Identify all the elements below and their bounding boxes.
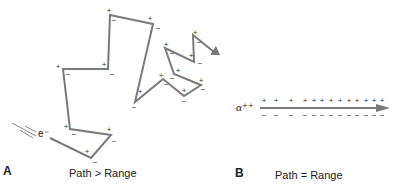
minus-ion: − bbox=[156, 24, 161, 33]
alpha-path-diagram: +++++++++++++−−−−−−−−−−−−− bbox=[260, 96, 390, 120]
panel-b-caption: Path = Range bbox=[275, 169, 343, 181]
minus-ion: − bbox=[164, 80, 169, 89]
minus-ion: − bbox=[372, 111, 377, 120]
plus-ion: + bbox=[355, 96, 360, 105]
minus-ion: − bbox=[132, 103, 137, 112]
minus-ion: − bbox=[198, 59, 203, 68]
minus-ion: − bbox=[320, 111, 325, 120]
minus-ion: − bbox=[197, 38, 202, 47]
minus-ion: − bbox=[93, 158, 98, 167]
plus-ion: + bbox=[85, 147, 90, 156]
plus-ion: + bbox=[289, 96, 294, 105]
plus-ion: + bbox=[159, 71, 164, 80]
plus-ion: + bbox=[320, 96, 325, 105]
minus-ion: − bbox=[289, 111, 294, 120]
plus-ion: + bbox=[148, 14, 153, 23]
plus-ion: + bbox=[338, 96, 343, 105]
plus-ion: + bbox=[176, 66, 181, 75]
plus-ion: + bbox=[107, 125, 112, 134]
minus-ion: − bbox=[338, 111, 343, 120]
panel-a-caption: Path > Range bbox=[69, 167, 137, 179]
plus-ion: + bbox=[107, 6, 112, 15]
minus-ion: − bbox=[347, 111, 352, 120]
minus-ion: − bbox=[262, 111, 267, 120]
minus-ion: − bbox=[380, 111, 385, 120]
diagram-canvas: +−+−+−+−+−+−+−+−+−+−+−+−+−+−+− +++++++++… bbox=[0, 0, 398, 189]
plus-ion: + bbox=[380, 96, 385, 105]
minus-ion: − bbox=[201, 85, 206, 94]
plus-ion: + bbox=[138, 87, 143, 96]
minus-ion: − bbox=[112, 16, 117, 25]
plus-ion: + bbox=[64, 122, 69, 131]
plus-ion: + bbox=[199, 76, 204, 85]
plus-ion: + bbox=[193, 28, 198, 37]
minus-ion: − bbox=[182, 97, 187, 106]
minus-ion: − bbox=[329, 111, 334, 120]
plus-ion: + bbox=[56, 62, 61, 71]
minus-ion: − bbox=[303, 111, 308, 120]
minus-ion: − bbox=[170, 74, 175, 83]
plus-ion: + bbox=[303, 96, 308, 105]
plus-ion: + bbox=[347, 96, 352, 105]
minus-ion: − bbox=[274, 111, 279, 120]
minus-ion: − bbox=[72, 130, 77, 139]
electron-path-diagram: +−+−+−+−+−+−+−+−+−+−+−+−+−+−+− bbox=[12, 6, 220, 167]
minus-ion: − bbox=[355, 111, 360, 120]
panel-a-label: A bbox=[3, 164, 12, 178]
plus-ion: + bbox=[329, 96, 334, 105]
plus-ion: + bbox=[102, 60, 107, 69]
minus-ion: − bbox=[170, 49, 175, 58]
plus-ion: + bbox=[262, 96, 267, 105]
alpha-particle-label: α⁺⁺ bbox=[236, 101, 254, 114]
minus-ion: − bbox=[364, 111, 369, 120]
plus-ion: + bbox=[364, 96, 369, 105]
minus-ion: − bbox=[110, 70, 115, 79]
motion-line bbox=[12, 123, 36, 136]
plus-ion: + bbox=[274, 96, 279, 105]
plus-ion: + bbox=[182, 86, 187, 95]
plus-ion: + bbox=[372, 96, 377, 105]
plus-ion: + bbox=[164, 40, 169, 49]
plus-ion: + bbox=[312, 96, 317, 105]
plus-ion: + bbox=[189, 51, 194, 60]
minus-ion: − bbox=[66, 70, 71, 79]
minus-ion: − bbox=[312, 111, 317, 120]
minus-ion: − bbox=[112, 137, 117, 146]
panel-b-label: B bbox=[235, 166, 244, 180]
electron-label: e⁻ bbox=[38, 128, 49, 139]
